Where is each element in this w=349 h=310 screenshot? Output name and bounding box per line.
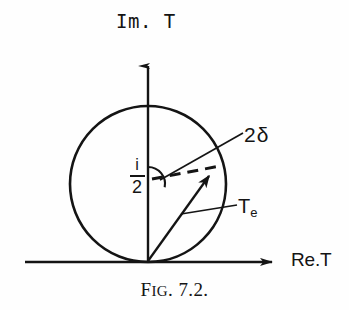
twodelta-leader-line <box>160 133 243 180</box>
figure-caption: FIG. 7.2. <box>0 279 349 301</box>
te-vector-label: Te <box>238 196 257 219</box>
dashed-radius-line <box>152 166 220 179</box>
phase-angle-label: 2δ <box>244 124 269 145</box>
caption-smallcaps: IG <box>151 283 168 299</box>
radius-value-label: i 2 <box>126 157 148 197</box>
te-vector-arrow <box>148 176 209 261</box>
figure-container: Im. T Re.T 2δ Te i 2 FIG. 7.2. <box>0 0 349 310</box>
te-leader-line <box>181 205 237 214</box>
real-axis-label: Re.T <box>291 250 331 269</box>
te-vector-label-main: T <box>238 195 250 217</box>
caption-prefix: F <box>140 279 151 300</box>
te-vector-label-subscript: e <box>250 205 257 220</box>
imaginary-axis-label: Im. T <box>116 12 176 31</box>
radius-numerator: i <box>126 157 148 174</box>
radius-denominator: 2 <box>126 178 148 197</box>
caption-rest: . 7.2. <box>168 279 208 300</box>
